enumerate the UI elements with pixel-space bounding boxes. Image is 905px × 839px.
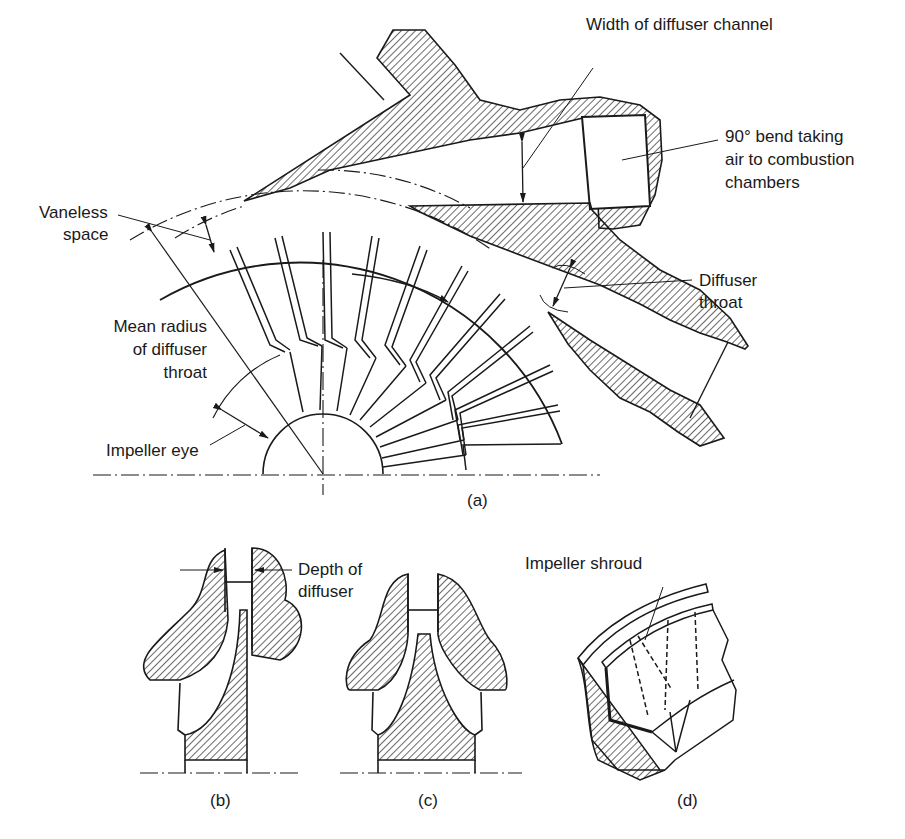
label-mean-radius-line3: throat xyxy=(60,362,207,384)
label-diffuser-throat-line1: Diffuser xyxy=(699,270,757,292)
casing-right-b xyxy=(252,548,301,660)
label-impeller-eye: Impeller eye xyxy=(106,440,199,462)
label-bend-line2: air to combustion xyxy=(725,149,854,171)
label-vaneless-line2: space xyxy=(63,224,108,246)
centrifugal-compressor-figure: Width of diffuser channel 90° bend takin… xyxy=(0,0,905,839)
label-vaneless-line1: Vaneless xyxy=(39,202,108,224)
label-width-of-diffuser-channel: Width of diffuser channel xyxy=(586,14,773,36)
caption-a: (a) xyxy=(467,490,488,512)
bend-box xyxy=(582,115,650,209)
label-mean-radius-line1: Mean radius xyxy=(60,316,207,338)
label-diffuser-throat-line2: throat xyxy=(699,292,742,314)
diffuser-vane-lower xyxy=(410,203,748,349)
label-bend-line3: chambers xyxy=(725,172,800,194)
label-depth-line1: Depth of xyxy=(298,559,362,581)
label-mean-radius-line2: of diffuser xyxy=(60,339,207,361)
label-impeller-shroud: Impeller shroud xyxy=(525,553,642,575)
panel-b-section xyxy=(140,548,301,773)
panel-a-impeller-diffuser xyxy=(93,30,748,495)
caption-d: (d) xyxy=(677,790,698,812)
panel-d-shroud xyxy=(578,584,736,780)
panel-c-section xyxy=(340,574,522,773)
label-bend-line1: 90° bend taking xyxy=(725,126,843,148)
caption-b: (b) xyxy=(210,790,231,812)
caption-c: (c) xyxy=(418,790,438,812)
impeller-blades xyxy=(230,232,561,470)
label-depth-line2: diffuser xyxy=(298,581,353,603)
